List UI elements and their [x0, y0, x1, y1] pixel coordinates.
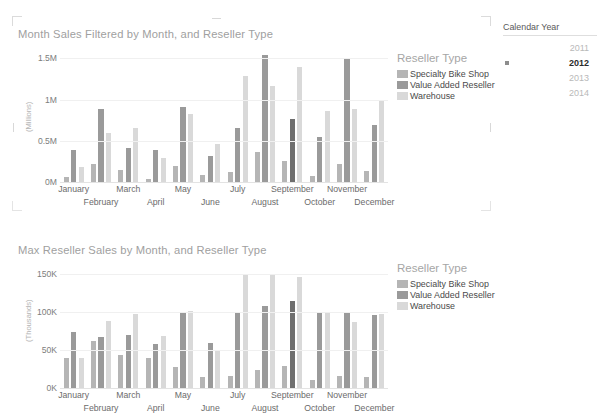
bar[interactable] [208, 156, 213, 182]
bar-group[interactable] [87, 266, 114, 388]
bar[interactable] [352, 109, 357, 182]
bar[interactable] [118, 355, 123, 388]
x-axis-tick-label: April [147, 197, 164, 207]
bar[interactable] [161, 158, 166, 182]
bar[interactable] [282, 366, 287, 388]
bar-group[interactable] [197, 266, 224, 388]
bar[interactable] [243, 76, 248, 182]
legend-item-specialty-bike-shop[interactable]: Specialty Bike Shop [397, 69, 495, 79]
bar[interactable] [372, 315, 377, 388]
bar[interactable] [228, 172, 233, 182]
bar[interactable] [364, 171, 369, 182]
bar[interactable] [317, 137, 322, 182]
x-axis-tick-label: March [116, 184, 140, 194]
legend-item-warehouse[interactable]: Warehouse [397, 91, 495, 101]
bar[interactable] [379, 314, 384, 388]
bar[interactable] [71, 332, 76, 388]
bar[interactable] [146, 358, 151, 389]
bar-group[interactable] [87, 50, 114, 182]
bar[interactable] [71, 150, 76, 182]
slicer-option-2012[interactable]: 2012 [503, 55, 597, 70]
bar-group[interactable] [142, 266, 169, 388]
bar[interactable] [364, 377, 369, 388]
bar[interactable] [133, 128, 138, 182]
bar[interactable] [91, 341, 96, 388]
bar[interactable] [255, 370, 260, 388]
bar-group[interactable] [251, 266, 278, 388]
legend-item-value-added-reseller[interactable]: Value Added Reseller [397, 80, 495, 90]
slicer-calendar-year[interactable]: Calendar Year 2011 2012 2013 2014 [503, 22, 597, 100]
bar[interactable] [200, 175, 205, 182]
bar[interactable] [262, 306, 267, 388]
slicer-option-2011[interactable]: 2011 [503, 40, 597, 55]
x-axis-tick-label: August [251, 197, 278, 207]
bar[interactable] [352, 322, 357, 388]
bar-group[interactable] [361, 266, 388, 388]
bar[interactable] [372, 125, 377, 182]
bar[interactable] [126, 335, 131, 388]
bar[interactable] [126, 148, 131, 182]
bar[interactable] [133, 314, 138, 388]
bar-group[interactable] [279, 50, 306, 182]
gridline [60, 58, 388, 59]
bar[interactable] [344, 59, 349, 182]
bar-group[interactable] [169, 266, 196, 388]
bar[interactable] [337, 376, 342, 388]
bar-group[interactable] [251, 50, 278, 182]
bar[interactable] [64, 358, 69, 389]
legend-item-warehouse[interactable]: Warehouse [397, 301, 495, 311]
bar-group[interactable] [224, 50, 251, 182]
bar[interactable] [290, 301, 295, 388]
bar[interactable] [297, 67, 302, 183]
bar-group[interactable] [115, 50, 142, 182]
bar[interactable] [188, 114, 193, 182]
bar-group[interactable] [142, 50, 169, 182]
bar[interactable] [337, 164, 342, 182]
bar-group[interactable] [306, 266, 333, 388]
bar[interactable] [173, 166, 178, 183]
bar[interactable] [310, 380, 315, 388]
bar[interactable] [173, 367, 178, 388]
legend-item-value-added-reseller[interactable]: Value Added Reseller [397, 290, 495, 300]
bar-group[interactable] [361, 50, 388, 182]
bar-group[interactable] [333, 50, 360, 182]
bar[interactable] [215, 144, 220, 182]
bar-group[interactable] [60, 266, 87, 388]
bar[interactable] [180, 107, 185, 182]
bar[interactable] [118, 170, 123, 182]
bar-group[interactable] [169, 50, 196, 182]
bar[interactable] [228, 376, 233, 388]
bar[interactable] [282, 161, 287, 182]
bar-group[interactable] [333, 266, 360, 388]
bar[interactable] [297, 277, 302, 388]
bar[interactable] [325, 111, 330, 182]
bar[interactable] [255, 152, 260, 182]
bar-group[interactable] [279, 266, 306, 388]
bar[interactable] [79, 167, 84, 182]
bar[interactable] [153, 150, 158, 182]
bar[interactable] [161, 336, 166, 388]
legend-item-specialty-bike-shop[interactable]: Specialty Bike Shop [397, 279, 495, 289]
bar-group[interactable] [115, 266, 142, 388]
bar[interactable] [215, 351, 220, 388]
bar-group[interactable] [60, 50, 87, 182]
bar[interactable] [235, 128, 240, 182]
bar[interactable] [98, 337, 103, 388]
bar[interactable] [79, 358, 84, 389]
bar[interactable] [262, 55, 267, 182]
bar-series-max-reseller-sales[interactable] [60, 266, 388, 388]
bar[interactable] [200, 377, 205, 388]
bar-group[interactable] [224, 266, 251, 388]
bar[interactable] [106, 321, 111, 388]
bar-group[interactable] [197, 50, 224, 182]
bar[interactable] [98, 109, 103, 182]
slicer-option-2014[interactable]: 2014 [503, 85, 597, 100]
bar[interactable] [91, 164, 96, 182]
bar[interactable] [290, 119, 295, 182]
bar[interactable] [270, 275, 275, 388]
bar[interactable] [270, 86, 275, 182]
bar-series-month-sales[interactable] [60, 50, 388, 182]
bar-group[interactable] [306, 50, 333, 182]
bar[interactable] [243, 274, 248, 388]
slicer-option-2013[interactable]: 2013 [503, 70, 597, 85]
